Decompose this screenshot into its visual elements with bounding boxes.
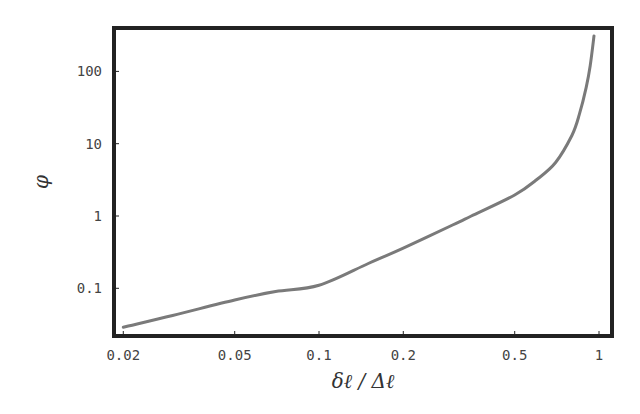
x-tick-label: 0.1	[306, 347, 331, 363]
x-tick-label: 0.02	[106, 347, 140, 363]
y-tick-label: 0.1	[77, 280, 102, 296]
y-tick-label: 100	[77, 63, 102, 79]
chart: 0.020.050.10.20.51 0.1110100 δℓ / Δℓ φ	[0, 0, 640, 414]
x-axis-label: δℓ / Δℓ	[332, 369, 395, 393]
x-tick-label: 0.05	[218, 347, 252, 363]
plot-frame	[114, 28, 612, 336]
y-tick-label: 1	[94, 208, 102, 224]
y-axis-label: φ	[29, 175, 53, 189]
y-tick-label: 10	[85, 136, 102, 152]
x-tick-label: 0.5	[502, 347, 527, 363]
x-tick-label: 0.2	[391, 347, 416, 363]
x-tick-label: 1	[595, 347, 603, 363]
